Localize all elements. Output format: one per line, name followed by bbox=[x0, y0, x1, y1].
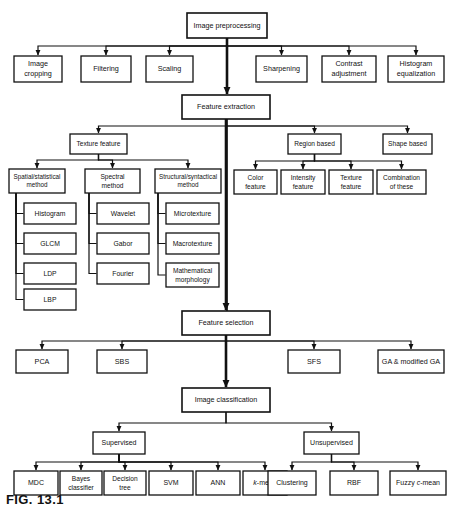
node-gabor[interactable]: Gabor bbox=[97, 233, 149, 254]
connector-structural_syntactical_method-to-macrotexture bbox=[158, 193, 166, 244]
node-decision_tree[interactable]: Decisiontree bbox=[104, 471, 146, 495]
node-microtexture[interactable]: Microtexture bbox=[166, 203, 219, 224]
node-ann[interactable]: ANN bbox=[196, 471, 240, 495]
node-label: Histogramequalization bbox=[397, 59, 435, 78]
connector-spatial_statistical_method-to-glcm bbox=[16, 193, 24, 244]
node-label: Wavelet bbox=[111, 209, 135, 216]
node-sfs[interactable]: SFS bbox=[288, 350, 340, 373]
node-spectral_method[interactable]: Spectralmethod bbox=[85, 169, 140, 193]
node-label: Microtexture bbox=[174, 209, 212, 216]
connector-supervised-to-bayes_classifier bbox=[81, 454, 119, 470]
node-label: SVM bbox=[163, 479, 178, 486]
node-filtering[interactable]: Filtering bbox=[81, 56, 131, 82]
node-label: GLCM bbox=[40, 239, 60, 246]
node-contrast_adjustment[interactable]: Contrastadjustment bbox=[322, 56, 376, 82]
connector-image_preprocessing-to-histogram_equalization bbox=[227, 38, 416, 55]
node-label: Imagecropping bbox=[24, 59, 52, 78]
connector-supervised-to-k_mean bbox=[119, 454, 265, 470]
node-image_cropping[interactable]: Imagecropping bbox=[14, 56, 62, 82]
node-svm[interactable]: SVM bbox=[149, 471, 193, 495]
node-feature_selection[interactable]: Feature selection bbox=[182, 311, 270, 335]
node-label: Texture feature bbox=[77, 140, 121, 147]
node-label: Unsupervised bbox=[310, 439, 353, 447]
node-macrotexture[interactable]: Macrotexture bbox=[166, 233, 219, 254]
node-label: GA & modified GA bbox=[382, 356, 441, 365]
connector-feature_selection-to-pca bbox=[42, 335, 226, 349]
node-intensity_feature[interactable]: Intensityfeature bbox=[281, 170, 325, 194]
connector-unsupervised-to-clustering bbox=[292, 454, 332, 470]
node-label: Supervised bbox=[101, 439, 136, 447]
node-label: SBS bbox=[115, 356, 130, 365]
connector-image_classification-to-unsupervised bbox=[226, 412, 332, 431]
node-combination_of_these[interactable]: Combinationof these bbox=[377, 170, 426, 194]
connector-spectral_method-to-fourier bbox=[89, 193, 97, 274]
node-histogram[interactable]: Histogram bbox=[24, 203, 76, 224]
node-label: Feature selection bbox=[198, 318, 253, 327]
node-feature_extraction[interactable]: Feature extraction bbox=[182, 95, 270, 119]
node-ga_modified_ga[interactable]: GA & modified GA bbox=[378, 350, 444, 373]
node-pca[interactable]: PCA bbox=[16, 350, 68, 373]
node-label: MDC bbox=[28, 479, 44, 486]
connector-structural_syntactical_method-to-mathematical_morphology bbox=[158, 193, 166, 275]
connector-spatial_statistical_method-to-lbp bbox=[16, 193, 24, 300]
node-wavelet[interactable]: Wavelet bbox=[97, 203, 149, 224]
connector-image_classification-to-supervised bbox=[119, 412, 226, 431]
node-spatial_statistical_method[interactable]: Spatial/statisticalmethod bbox=[9, 169, 65, 193]
node-label: Image classification bbox=[195, 395, 258, 404]
node-label: Feature extraction bbox=[197, 102, 255, 111]
flowchart-diagram: Image preprocessingImagecroppingFilterin… bbox=[0, 0, 452, 517]
node-label: Region based bbox=[294, 140, 335, 148]
node-texture_feature_region[interactable]: Texturefeature bbox=[329, 170, 373, 194]
node-region_based[interactable]: Region based bbox=[288, 134, 341, 154]
node-label: Fourier bbox=[112, 269, 134, 276]
node-histogram_equalization[interactable]: Histogramequalization bbox=[388, 56, 444, 82]
connector-feature_extraction-to-shape_based bbox=[226, 119, 408, 133]
node-label: Filtering bbox=[93, 64, 119, 73]
connector-texture_feature_main-to-spatial_statistical_method bbox=[37, 154, 99, 168]
node-sbs[interactable]: SBS bbox=[97, 350, 147, 373]
node-image_preprocessing[interactable]: Image preprocessing bbox=[187, 13, 267, 38]
node-clustering[interactable]: Clustering bbox=[268, 471, 316, 495]
node-texture_feature_main[interactable]: Texture feature bbox=[70, 134, 127, 154]
node-mathematical_morphology[interactable]: Mathematicalmorphology bbox=[166, 263, 219, 287]
node-label: PCA bbox=[35, 356, 50, 365]
connector-feature_selection-to-sbs bbox=[122, 335, 226, 349]
node-label: Contrastadjustment bbox=[331, 59, 366, 78]
connector-feature_extraction-to-texture_feature_main bbox=[99, 119, 227, 133]
node-label: LBP bbox=[44, 295, 57, 302]
node-shape_based[interactable]: Shape based bbox=[383, 134, 432, 154]
node-label: ANN bbox=[211, 479, 226, 486]
node-sharpening[interactable]: Sharpening bbox=[256, 56, 307, 82]
node-label: Gabor bbox=[114, 239, 134, 246]
node-rbf[interactable]: RBF bbox=[330, 471, 378, 495]
node-unsupervised[interactable]: Unsupervised bbox=[304, 432, 359, 454]
connector-texture_feature_main-to-spectral_method bbox=[99, 154, 113, 168]
node-label: Histogram bbox=[35, 209, 66, 217]
node-label: Scaling bbox=[158, 64, 182, 73]
node-lbp[interactable]: LBP bbox=[24, 289, 76, 310]
node-label: Shape based bbox=[388, 140, 427, 148]
node-label: Clustering bbox=[276, 479, 308, 487]
node-ldp[interactable]: LDP bbox=[24, 263, 76, 284]
node-color_feature[interactable]: Colorfeature bbox=[234, 170, 277, 194]
node-image_classification[interactable]: Image classification bbox=[182, 388, 270, 412]
node-label: Fuzzy c-mean bbox=[396, 479, 440, 487]
node-scaling[interactable]: Scaling bbox=[146, 56, 193, 82]
node-bayes_classifier[interactable]: Bayesclassifier bbox=[60, 471, 102, 495]
node-fourier[interactable]: Fourier bbox=[97, 263, 149, 284]
connector-unsupervised-to-fuzzy_c_mean bbox=[332, 454, 419, 470]
node-label: Mathematicalmorphology bbox=[173, 266, 213, 283]
node-structural_syntactical_method[interactable]: Structural/syntacticalmethod bbox=[155, 169, 221, 193]
connector-spatial_statistical_method-to-ldp bbox=[16, 193, 24, 274]
node-fuzzy_c_mean[interactable]: Fuzzy c-mean bbox=[390, 471, 446, 495]
connector-spectral_method-to-gabor bbox=[89, 193, 97, 244]
node-supervised[interactable]: Supervised bbox=[93, 432, 145, 454]
node-label: RBF bbox=[347, 479, 361, 486]
node-label: Sharpening bbox=[263, 64, 300, 73]
connector-image_preprocessing-to-scaling bbox=[170, 38, 228, 55]
connector-region_based-to-intensity_feature bbox=[303, 154, 315, 169]
node-glcm[interactable]: GLCM bbox=[24, 233, 76, 254]
node-label: SFS bbox=[307, 356, 321, 365]
connector-feature_selection-to-ga_modified_ga bbox=[226, 335, 411, 349]
node-label: Image preprocessing bbox=[193, 20, 260, 29]
